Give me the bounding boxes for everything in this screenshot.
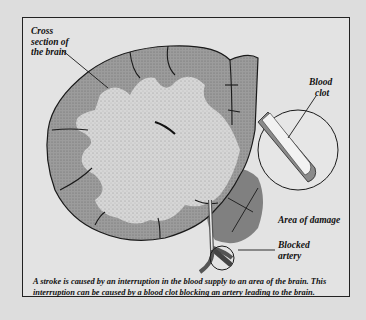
label-cross-section-line3: the brain xyxy=(31,47,69,58)
label-cross-section-line1: Cross xyxy=(31,26,69,37)
label-blocked-artery: Blocked artery xyxy=(278,240,310,261)
caption: A stroke is caused by an interruption in… xyxy=(33,277,343,298)
label-blocked-artery-line1: Blocked xyxy=(278,240,310,251)
label-blood-clot: Blood clot xyxy=(309,77,332,98)
label-blocked-artery-line2: artery xyxy=(278,251,310,262)
label-blood-clot-line2: clot xyxy=(309,88,332,99)
label-cross-section-line2: section of xyxy=(31,37,69,48)
label-blood-clot-line1: Blood xyxy=(309,77,332,88)
label-cross-section: Cross section of the brain xyxy=(31,26,69,58)
label-area-of-damage: Area of damage xyxy=(278,215,340,226)
